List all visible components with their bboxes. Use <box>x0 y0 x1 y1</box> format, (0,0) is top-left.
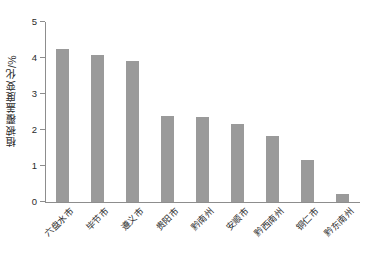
bar <box>56 49 69 202</box>
x-axis-tick-label: 黔南州 <box>189 207 214 232</box>
y-axis-tick-label: 5 <box>32 17 37 27</box>
y-axis-tick-label: 0 <box>32 197 37 207</box>
bar <box>266 136 279 202</box>
bar <box>161 116 174 202</box>
x-axis-tick-label: 遵义市 <box>119 207 144 232</box>
x-axis-tick-label: 毕节市 <box>84 207 109 232</box>
bar <box>196 117 209 202</box>
y-axis-tick: 2 <box>40 129 45 130</box>
bar <box>91 55 104 202</box>
y-axis-line <box>45 22 46 203</box>
y-axis-tick-label: 4 <box>32 53 37 63</box>
y-axis-tick-label: 2 <box>32 125 37 135</box>
bar <box>231 124 244 202</box>
x-axis-tick-label: 黔东南州 <box>323 207 355 239</box>
y-axis-tick: 1 <box>40 165 45 166</box>
y-axis-title: 植被覆盖度变化/% <box>2 0 20 202</box>
x-axis-tick-label: 安顺市 <box>224 207 249 232</box>
y-axis-tick: 4 <box>40 57 45 58</box>
y-axis-tick-label: 1 <box>32 161 37 171</box>
plot-area: 012345 六盘水市毕节市遵义市贵阳市黔南州安顺市黔西南州铜仁市黔东南州 <box>45 22 360 202</box>
bar <box>336 194 349 202</box>
x-axis-tick-label: 六盘水市 <box>43 207 75 239</box>
y-axis-tick: 3 <box>40 93 45 94</box>
x-axis-line <box>45 202 360 203</box>
y-axis-tick: 5 <box>40 21 45 22</box>
bar <box>126 61 139 202</box>
x-axis-tick-label: 铜仁市 <box>294 207 319 232</box>
x-axis-tick-label: 黔西南州 <box>253 207 285 239</box>
bar <box>301 160 314 202</box>
vegetation-coverage-bar-chart: 植被覆盖度变化/% 012345 六盘水市毕节市遵义市贵阳市黔南州安顺市黔西南州… <box>0 0 384 268</box>
x-axis-tick-label: 贵阳市 <box>154 207 179 232</box>
y-axis-tick: 0 <box>40 201 45 202</box>
y-axis-tick-label: 3 <box>32 89 37 99</box>
